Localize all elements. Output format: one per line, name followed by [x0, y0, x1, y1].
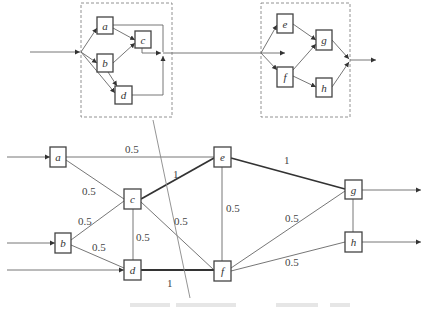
- node-label: e: [283, 18, 288, 30]
- node-label: a: [55, 151, 61, 163]
- top-node-f: f: [277, 67, 293, 87]
- weight-a-c: 0.5: [82, 185, 96, 197]
- weight-c-e: 1: [173, 168, 179, 180]
- weight-d-f: 1: [167, 277, 173, 289]
- top-node-h: h: [316, 78, 332, 97]
- node-e: e: [214, 147, 231, 167]
- node-label: g: [351, 184, 357, 196]
- edge-f-h: [293, 76, 316, 87]
- top-node-c: c: [135, 31, 151, 48]
- caption: [130, 303, 350, 307]
- node-d: d: [124, 260, 141, 280]
- node-b: b: [55, 233, 71, 253]
- node-label: g: [321, 34, 327, 46]
- weight-f-g: 0.5: [285, 212, 299, 224]
- node-label: c: [141, 34, 146, 46]
- weight-b-c: 0.5: [78, 215, 92, 227]
- top-node-d: d: [115, 86, 132, 104]
- node-c: c: [124, 189, 141, 209]
- top-left-group: a b c d: [30, 3, 285, 117]
- node-label: b: [60, 237, 66, 249]
- node-a: a: [50, 147, 66, 167]
- top-node-g: g: [316, 30, 332, 50]
- top-node-a: a: [97, 17, 113, 34]
- edge-a-c: [113, 28, 135, 40]
- edge-f-g: [293, 44, 316, 70]
- edge-b-d: [108, 72, 117, 86]
- weight-e-g: 1: [284, 154, 290, 166]
- weight-a-e: 0.5: [125, 143, 139, 155]
- edge-h-out: [332, 62, 349, 87]
- dashed-boundary-right: [261, 3, 350, 117]
- weight-c-f: 0.5: [174, 215, 188, 227]
- node-label: c: [130, 193, 135, 205]
- edge-d-out: [132, 56, 163, 95]
- edge-e-g: [293, 24, 316, 40]
- edge-b-c: [113, 43, 135, 63]
- node-label: h: [351, 236, 357, 248]
- top-node-e: e: [277, 14, 293, 33]
- cut-line: [153, 120, 190, 298]
- bottom-graph: 0.5 0.5 0.5 0.5 1 0.5 0.5 1 0.5 1 0.5 0.…: [7, 120, 421, 298]
- node-h: h: [345, 232, 362, 252]
- node-label: h: [321, 82, 327, 94]
- node-label: b: [102, 57, 108, 69]
- edge-in-a: [81, 28, 97, 52]
- node-g: g: [345, 180, 362, 199]
- node-label: a: [102, 20, 108, 32]
- node-label: e: [220, 151, 225, 163]
- node-label: d: [130, 264, 136, 276]
- edge-g-out: [332, 40, 349, 59]
- weight-b-d: 0.5: [92, 241, 106, 253]
- top-right-group: e f g h: [261, 3, 376, 117]
- weight-e-f: 0.5: [226, 202, 240, 214]
- edge-c-out: [142, 48, 161, 53]
- diagram-canvas: a b c d e f: [0, 0, 429, 311]
- edge-in-f: [261, 53, 277, 70]
- edge-in-e: [261, 25, 277, 53]
- node-f: f: [214, 261, 231, 281]
- weight-f-h: 0.5: [285, 256, 299, 268]
- top-node-b: b: [97, 54, 113, 72]
- node-label: d: [121, 89, 127, 101]
- weight-c-d: 0.5: [136, 231, 150, 243]
